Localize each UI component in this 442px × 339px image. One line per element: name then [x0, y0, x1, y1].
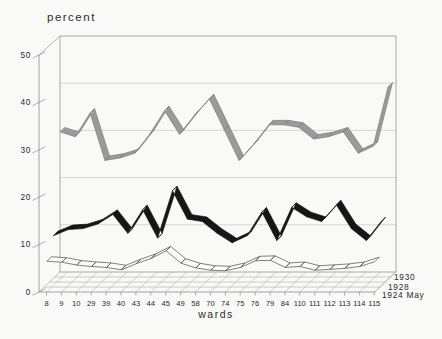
x-tick-label: 114 — [353, 299, 365, 308]
x-tick-label: 84 — [281, 299, 289, 308]
x-tick-label: 115 — [368, 299, 380, 308]
ribbon-1924-may — [47, 246, 379, 270]
x-tick-label: 43 — [132, 299, 140, 308]
ribbon-chart-canvas: 0102030405089102939404344454958707475767… — [0, 0, 442, 339]
legend-label-1924-may: 1924 May — [382, 290, 424, 300]
x-tick-label: 9 — [59, 299, 63, 308]
y-tick-label: 20 — [21, 192, 31, 202]
x-tick-label: 44 — [147, 299, 155, 308]
x-tick-label: 112 — [324, 299, 336, 308]
x-tick-label: 76 — [251, 299, 259, 308]
x-tick-label: 40 — [117, 299, 125, 308]
x-tick-label: 45 — [161, 299, 169, 308]
y-tick-label: 50 — [21, 50, 31, 60]
x-axis-title: wards — [146, 308, 286, 320]
y-tick-label: 40 — [21, 97, 31, 107]
x-tick-label: 113 — [338, 299, 350, 308]
x-tick-label: 58 — [191, 299, 199, 308]
x-tick-label: 49 — [176, 299, 184, 308]
x-tick-label: 70 — [206, 299, 214, 308]
legend-label-1930: 1930 — [394, 272, 415, 282]
x-tick-label: 10 — [72, 299, 80, 308]
chart-figure: percent 01020304050891029394043444549587… — [0, 0, 442, 339]
x-tick-label: 74 — [221, 299, 229, 308]
x-tick-label: 75 — [236, 299, 244, 308]
y-tick-label: 0 — [26, 287, 31, 297]
x-tick-label: 111 — [309, 299, 321, 308]
y-tick-label: 30 — [21, 145, 31, 155]
y-tick-label: 10 — [21, 239, 31, 249]
ribbon-1930 — [60, 82, 392, 160]
x-tick-label: 110 — [294, 299, 306, 308]
x-tick-label: 8 — [44, 299, 48, 308]
x-tick-label: 39 — [102, 299, 110, 308]
x-tick-label: 79 — [266, 299, 274, 308]
y-axis-top-diagonal — [39, 36, 60, 55]
ribbon-1928 — [53, 186, 385, 243]
x-tick-label: 29 — [87, 299, 95, 308]
